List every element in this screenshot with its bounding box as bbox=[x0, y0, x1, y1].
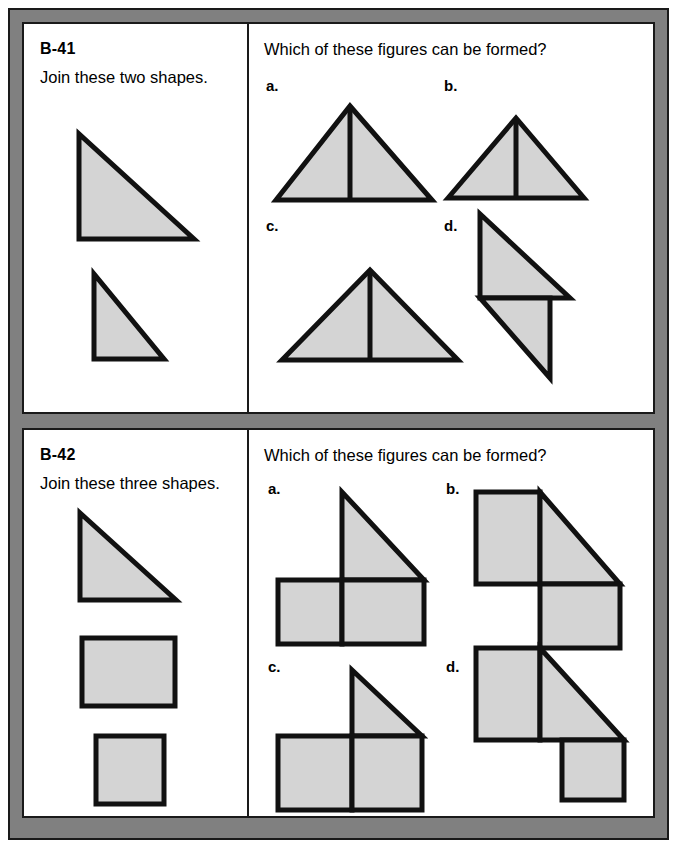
b42-given-rectangle bbox=[82, 638, 175, 706]
b42-opt-a-right-rect bbox=[342, 580, 424, 644]
b42-option-a-figure[interactable] bbox=[274, 486, 449, 646]
panel-b41-divider bbox=[247, 24, 249, 412]
b42-option-b-label[interactable]: b. bbox=[446, 480, 459, 497]
problem-panel-b41: B-41 Join these two shapes. Which of the… bbox=[22, 22, 655, 414]
b41-option-d-figure[interactable] bbox=[472, 206, 622, 386]
b42-opt-d-triangle bbox=[540, 648, 624, 740]
b42-option-c-figure[interactable] bbox=[274, 664, 449, 816]
b41-given-shapes bbox=[74, 124, 234, 379]
b42-opt-b-triangle bbox=[540, 492, 620, 584]
b42-option-d-figure[interactable] bbox=[472, 644, 642, 804]
b41-opt-a-triangle bbox=[276, 106, 432, 200]
b42-opt-a-triangle bbox=[342, 492, 424, 580]
b41-option-b-label[interactable]: b. bbox=[444, 77, 457, 94]
b42-opt-b-top-left-square bbox=[476, 492, 540, 584]
b41-option-d-label[interactable]: d. bbox=[444, 217, 457, 234]
worksheet-page: B-41 Join these two shapes. Which of the… bbox=[0, 0, 677, 848]
b41-opt-d-lower-triangle bbox=[480, 298, 550, 378]
b42-option-d-label[interactable]: d. bbox=[446, 658, 459, 675]
b41-option-a-figure[interactable] bbox=[272, 98, 452, 208]
b41-opt-d-upper-triangle bbox=[480, 214, 570, 298]
problem-b42-number: B-42 bbox=[40, 446, 75, 464]
b42-given-square bbox=[96, 736, 164, 804]
b41-option-a-label[interactable]: a. bbox=[266, 77, 279, 94]
problem-b41-number: B-41 bbox=[40, 40, 75, 58]
problem-b41-question: Which of these figures can be formed? bbox=[264, 40, 546, 59]
problem-b42-instruction: Join these three shapes. bbox=[40, 474, 220, 493]
b42-opt-a-left-square bbox=[278, 580, 342, 644]
problem-b41-instruction: Join these two shapes. bbox=[40, 68, 208, 87]
b42-opt-b-bottom-square bbox=[540, 584, 620, 648]
b42-opt-c-left-rect bbox=[278, 736, 352, 810]
b41-option-c-figure[interactable] bbox=[278, 260, 468, 370]
b42-given-triangle bbox=[80, 513, 176, 600]
b41-option-c-label[interactable]: c. bbox=[266, 217, 279, 234]
problem-b42-question: Which of these figures can be formed? bbox=[264, 446, 546, 465]
panel-b42-divider bbox=[247, 430, 249, 816]
problem-panel-b42: B-42 Join these three shapes. Which of t… bbox=[22, 428, 655, 818]
b42-opt-c-right-rect bbox=[352, 736, 422, 810]
b42-opt-c-triangle bbox=[352, 670, 422, 736]
b41-given-large-triangle bbox=[79, 134, 194, 239]
b41-given-small-triangle bbox=[94, 274, 164, 359]
b42-opt-d-bottom-square bbox=[562, 740, 624, 800]
b42-opt-d-top-left-rect bbox=[476, 648, 540, 740]
b42-given-shapes bbox=[72, 508, 242, 798]
b42-option-b-figure[interactable] bbox=[472, 488, 637, 653]
b41-option-b-figure[interactable] bbox=[444, 110, 604, 205]
